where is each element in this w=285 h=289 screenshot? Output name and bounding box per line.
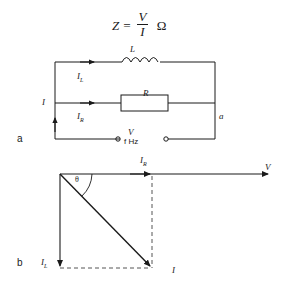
phasor-diagram bbox=[60, 174, 268, 268]
terminal-label-a: a bbox=[219, 112, 224, 121]
phasor-label-IL-sub: L bbox=[44, 263, 47, 269]
phasor-label-IR: IR bbox=[140, 156, 147, 167]
label-current-total: I bbox=[42, 98, 45, 107]
equation-numerator: V bbox=[137, 10, 149, 25]
phasor-label-V: V bbox=[265, 163, 271, 172]
phasor-I-resultant bbox=[60, 174, 150, 266]
figure-drawing bbox=[0, 0, 285, 289]
equation-lhs: Z bbox=[112, 18, 119, 33]
label-current-IL: IL bbox=[77, 72, 83, 83]
equation-unit-ohm: Ω bbox=[157, 18, 167, 33]
equation-denominator: I bbox=[137, 25, 149, 39]
label-current-IL-sub: L bbox=[80, 77, 83, 83]
source-terminal-right bbox=[164, 137, 168, 141]
figure-container: Z = V I Ω L R IL IR I a V f Hz a IR V IL… bbox=[0, 0, 285, 289]
source-frequency-label: f Hz bbox=[124, 138, 138, 146]
phasor-label-IL: IL bbox=[41, 258, 47, 269]
label-current-IR-sub: R bbox=[80, 117, 84, 123]
phasor-label-I: I bbox=[172, 266, 175, 275]
inductor-symbol bbox=[122, 58, 158, 63]
source-voltage-label: V bbox=[128, 128, 134, 137]
resistor-label: R bbox=[143, 89, 149, 98]
impedance-equation: Z = V I Ω bbox=[112, 10, 166, 38]
angle-arc-theta bbox=[82, 174, 92, 196]
label-current-IR: IR bbox=[77, 112, 84, 123]
equation-equals: = bbox=[122, 18, 131, 33]
figure-tag-b: b bbox=[17, 258, 23, 268]
equation-fraction: V I bbox=[137, 10, 149, 38]
phasor-label-IR-sub: R bbox=[143, 161, 147, 167]
figure-tag-a: a bbox=[17, 134, 23, 144]
angle-label-theta: θ bbox=[75, 176, 79, 184]
inductor-label: L bbox=[130, 45, 135, 54]
